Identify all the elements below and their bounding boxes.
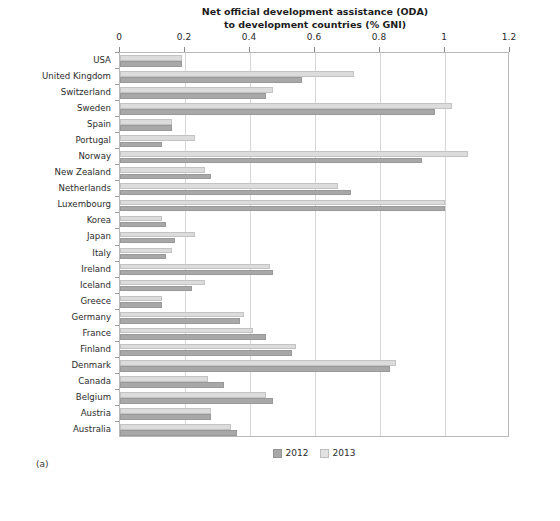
bar-2013-canada: [120, 376, 208, 382]
legend-swatch-2012: [273, 449, 282, 458]
bar-2013-sweden: [120, 103, 452, 109]
y-axis-label-denmark: Denmark: [0, 360, 111, 370]
y-axis-label-japan: Japan: [0, 231, 111, 241]
y-axis-label-netherlands: Netherlands: [0, 183, 111, 193]
y-tick-mark: [115, 405, 119, 406]
legend-label-2013: 2013: [333, 448, 356, 458]
y-tick-mark: [115, 132, 119, 133]
y-tick-mark: [115, 261, 119, 262]
legend-label-2012: 2012: [286, 448, 309, 458]
x-tick-label-0.8: 0.8: [372, 32, 386, 42]
legend-entry-2012: 2012: [273, 448, 309, 458]
chart-title-line-1: Net official development assistance (ODA…: [120, 6, 510, 19]
bar-2013-japan: [120, 232, 195, 238]
bar-2012-iceland: [120, 286, 192, 292]
y-tick-mark: [115, 357, 119, 358]
bar-2012-portugal: [120, 142, 162, 148]
x-tick-label-1: 1: [441, 32, 447, 42]
legend-entry-2013: 2013: [320, 448, 356, 458]
y-axis-label-iceland: Iceland: [0, 280, 111, 290]
y-tick-mark: [115, 309, 119, 310]
y-axis-label-belgium: Belgium: [0, 392, 111, 402]
gridline-1: [445, 53, 446, 436]
bar-2013-switzerland: [120, 87, 273, 93]
bar-2012-usa: [120, 61, 182, 67]
bar-2013-denmark: [120, 360, 396, 366]
bar-2012-sweden: [120, 109, 435, 115]
y-tick-mark: [115, 100, 119, 101]
y-axis-label-australia: Australia: [0, 424, 111, 434]
y-axis-label-korea: Korea: [0, 215, 111, 225]
bar-2013-usa: [120, 55, 182, 61]
y-tick-mark: [115, 325, 119, 326]
bar-2013-norway: [120, 151, 468, 157]
bar-2013-belgium: [120, 392, 266, 398]
y-axis-label-canada: Canada: [0, 376, 111, 386]
y-axis-label-greece: Greece: [0, 296, 111, 306]
bar-2012-germany: [120, 318, 240, 324]
bar-2013-ireland: [120, 264, 270, 270]
y-axis-label-finland: Finland: [0, 344, 111, 354]
y-tick-mark: [115, 421, 119, 422]
bar-2013-luxembourg: [120, 200, 445, 206]
bar-2012-new-zealand: [120, 174, 211, 180]
legend-swatch-2013: [320, 449, 329, 458]
y-axis-label-switzerland: Switzerland: [0, 87, 111, 97]
bar-2012-austria: [120, 414, 211, 420]
bar-2012-australia: [120, 430, 237, 436]
y-tick-mark: [115, 148, 119, 149]
y-tick-mark: [115, 116, 119, 117]
y-tick-mark: [115, 245, 119, 246]
bar-2012-canada: [120, 382, 224, 388]
bar-2013-germany: [120, 312, 244, 318]
bar-2012-italy: [120, 254, 166, 260]
chart-title: Net official development assistance (ODA…: [120, 6, 510, 31]
x-tick-label-0.4: 0.4: [242, 32, 256, 42]
bar-2013-france: [120, 328, 253, 334]
y-tick-mark: [115, 68, 119, 69]
y-axis-label-sweden: Sweden: [0, 103, 111, 113]
bar-2012-united-kingdom: [120, 77, 302, 83]
bar-2013-italy: [120, 248, 172, 254]
y-tick-mark: [115, 277, 119, 278]
x-tick-label-1.2: 1.2: [502, 32, 516, 42]
y-axis-label-new-zealand: New Zealand: [0, 167, 111, 177]
bar-2012-norway: [120, 158, 422, 164]
bar-2012-korea: [120, 222, 166, 228]
y-tick-mark: [115, 212, 119, 213]
bar-2013-australia: [120, 424, 231, 430]
chart-legend: 20122013: [119, 448, 509, 458]
y-tick-mark: [115, 180, 119, 181]
y-axis-label-portugal: Portugal: [0, 135, 111, 145]
panel-label: (a): [36, 459, 49, 469]
y-axis-label-norway: Norway: [0, 151, 111, 161]
bar-2013-austria: [120, 408, 211, 414]
bar-2012-ireland: [120, 270, 273, 276]
y-tick-mark: [115, 84, 119, 85]
y-tick-mark: [115, 164, 119, 165]
y-tick-mark: [115, 389, 119, 390]
bar-2012-denmark: [120, 366, 390, 372]
y-axis-label-austria: Austria: [0, 408, 111, 418]
y-tick-mark: [115, 293, 119, 294]
y-tick-mark: [115, 341, 119, 342]
y-tick-mark: [115, 196, 119, 197]
bar-2012-switzerland: [120, 93, 266, 99]
bar-2013-finland: [120, 344, 296, 350]
bar-2012-luxembourg: [120, 206, 445, 212]
bar-2012-spain: [120, 125, 172, 131]
bar-2013-netherlands: [120, 183, 338, 189]
bar-2013-iceland: [120, 280, 205, 286]
x-tick-label-0: 0: [116, 32, 122, 42]
bar-2012-finland: [120, 350, 292, 356]
y-axis-label-italy: Italy: [0, 248, 111, 258]
chart-title-line-2: to development countries (% GNI): [120, 19, 510, 32]
bar-2012-belgium: [120, 398, 273, 404]
y-axis-label-usa: USA: [0, 55, 111, 65]
bar-2013-korea: [120, 216, 162, 222]
bar-2012-netherlands: [120, 190, 351, 196]
y-axis-label-united-kingdom: United Kingdom: [0, 71, 111, 81]
y-axis-label-luxembourg: Luxembourg: [0, 199, 111, 209]
bar-2012-greece: [120, 302, 162, 308]
bar-2013-portugal: [120, 135, 195, 141]
